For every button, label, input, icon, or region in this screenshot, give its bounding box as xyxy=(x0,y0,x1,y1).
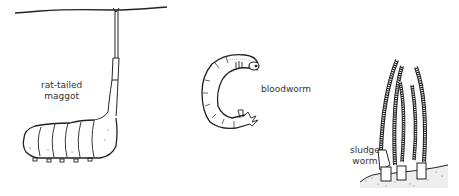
bloodworm-label: bloodworm xyxy=(261,84,311,95)
bloodworm-figure xyxy=(202,55,259,129)
water-surface-line xyxy=(15,7,167,13)
diagram-canvas: rat-tailed maggot bloodworm sludge worm xyxy=(0,0,459,196)
rat-tailed-maggot-label: rat-tailed maggot xyxy=(41,80,82,102)
sludge-worm-label: sludge worm xyxy=(350,145,380,167)
label-line: sludge xyxy=(350,145,380,156)
label-line: worm xyxy=(350,156,380,167)
label-line: maggot xyxy=(41,91,82,102)
sludge-worm-figure xyxy=(360,60,448,188)
label-line: rat-tailed xyxy=(41,80,82,91)
